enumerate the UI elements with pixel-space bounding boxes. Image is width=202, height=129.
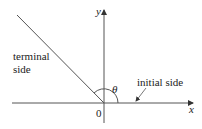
origin-label: 0 (96, 108, 102, 119)
x-axis-label: x (189, 104, 194, 115)
initial-side-pointer (136, 88, 146, 101)
terminal-side-label-line1: terminal (13, 51, 50, 62)
theta-label: θ (112, 84, 117, 95)
y-axis-label: y (96, 6, 101, 17)
initial-side-label: initial side (137, 77, 183, 88)
angle-diagram: y x 0 θ terminal side initial side (0, 0, 202, 129)
terminal-side-label-line2: side (13, 64, 31, 75)
